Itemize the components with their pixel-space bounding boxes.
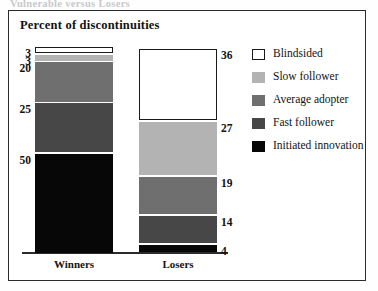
legend-swatch-icon <box>252 118 265 129</box>
data-label: 27 <box>221 123 245 135</box>
legend-swatch-icon <box>252 141 265 152</box>
legend-label: Average adopter <box>273 92 348 107</box>
bar-segment <box>35 154 113 253</box>
chart-figure: Vulnerable versus Losers Percent of disc… <box>0 0 378 291</box>
data-label: 4 <box>221 246 245 258</box>
legend-swatch-icon <box>252 95 265 106</box>
data-label: 25 <box>9 104 31 116</box>
bar-segment <box>35 47 113 53</box>
category-label-losers: Losers <box>133 258 223 270</box>
bar-segment <box>35 103 113 152</box>
stacked-bar-losers <box>139 0 217 291</box>
data-label: 3 <box>9 48 31 60</box>
data-label: 14 <box>221 217 245 229</box>
legend-swatch-icon <box>252 72 265 83</box>
stacked-bar-winners <box>35 0 113 291</box>
bar-segment <box>139 216 217 244</box>
legend-label: Blindsided <box>273 46 323 61</box>
bar-segment <box>139 177 217 215</box>
bar-segment <box>35 62 113 102</box>
bar-segment <box>139 245 217 253</box>
legend-label: Initiated innovation <box>273 138 363 153</box>
bar-segment <box>139 122 217 175</box>
legend-label: Fast follower <box>273 115 334 130</box>
data-label: 36 <box>221 50 245 62</box>
category-label-winners: Winners <box>29 258 119 270</box>
legend-swatch-icon <box>252 49 265 60</box>
bar-segment <box>139 49 217 120</box>
data-label: 50 <box>9 155 31 167</box>
bar-segment <box>35 55 113 61</box>
legend-label: Slow follower <box>273 69 338 84</box>
data-label: 19 <box>221 178 245 190</box>
